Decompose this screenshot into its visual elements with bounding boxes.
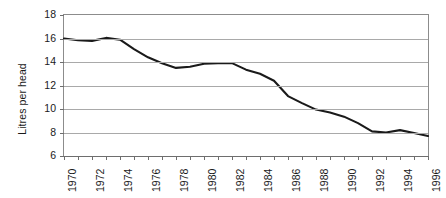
y-tick-label: 8 (30, 126, 56, 137)
y-tick-label: 10 (30, 103, 56, 114)
x-tickmark (428, 156, 429, 160)
y-tickmark (60, 15, 64, 16)
gridline (64, 62, 428, 63)
x-tick-label: 1990 (347, 169, 358, 192)
x-tick-label: 1976 (151, 169, 162, 192)
y-tick-label: 14 (30, 56, 56, 67)
x-tick-label: 1988 (319, 169, 330, 192)
y-axis-tick-labels: 181614121086 (28, 0, 56, 198)
gridline (64, 109, 428, 110)
plot-area (63, 14, 429, 157)
x-tick-label: 1974 (123, 169, 134, 192)
line-chart: Litres per head 181614121086 19701972197… (0, 0, 446, 198)
x-tick-label: 1978 (179, 169, 190, 192)
y-tick-label: 6 (30, 150, 56, 161)
x-tick-label: 1982 (235, 169, 246, 192)
gridline (64, 133, 428, 134)
x-tick-label: 1972 (95, 169, 106, 192)
x-tick-label: 1986 (291, 169, 302, 192)
x-tick-label: 1996 (431, 169, 442, 192)
x-tick-label: 1994 (403, 169, 414, 192)
x-tick-label: 1980 (207, 169, 218, 192)
gridline (64, 86, 428, 87)
y-tick-label: 18 (30, 9, 56, 20)
x-tick-label: 1992 (375, 169, 386, 192)
x-tick-label: 1970 (67, 169, 78, 192)
x-axis-tick-labels: 1970197219741976197819801982198419861988… (63, 160, 427, 198)
y-tick-label: 16 (30, 32, 56, 43)
y-tick-label: 12 (30, 79, 56, 90)
x-tick-label: 1984 (263, 169, 274, 192)
gridline (64, 39, 428, 40)
